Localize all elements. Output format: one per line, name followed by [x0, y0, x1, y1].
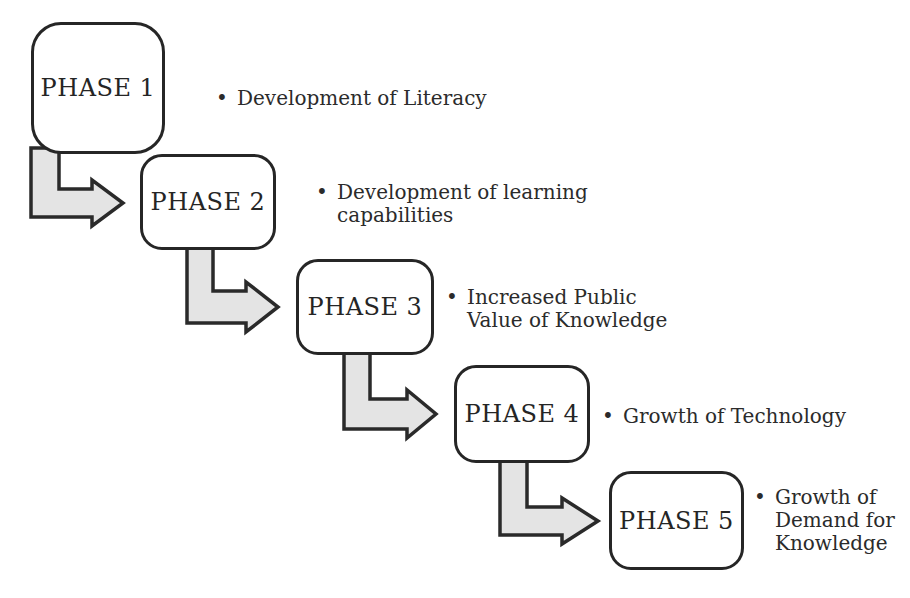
phase-4-annotation: • Growth of Technology: [602, 405, 846, 428]
phase-5-label: PHASE 5: [619, 507, 734, 535]
phase-5-annotation: • Growth of Demand for Knowledge: [754, 486, 895, 555]
arrow-phase3-to-phase4: [344, 349, 436, 438]
annotation-line: Increased Public: [467, 286, 667, 309]
phase-3-box: PHASE 3: [296, 259, 434, 355]
bullet-icon: •: [216, 87, 228, 110]
phase-2-annotation-text: Development of learning capabilities: [337, 181, 588, 227]
phase-2-box: PHASE 2: [140, 154, 276, 250]
phase-5-annotation-text: Growth of Demand for Knowledge: [775, 486, 895, 555]
bullet-icon: •: [316, 181, 328, 204]
annotation-line: Value of Knowledge: [467, 309, 667, 332]
arrow-phase1-to-phase2: [31, 148, 123, 226]
phase-1-box: PHASE 1: [31, 22, 165, 154]
phase-3-annotation-text: Increased Public Value of Knowledge: [467, 286, 667, 332]
annotation-line: Growth of Technology: [623, 405, 846, 428]
phase-4-label: PHASE 4: [465, 400, 580, 428]
annotation-line: Demand for: [775, 509, 895, 532]
phase-4-annotation-text: Growth of Technology: [623, 405, 846, 428]
phase-2-label: PHASE 2: [151, 188, 266, 216]
bullet-icon: •: [602, 405, 614, 428]
arrow-phase4-to-phase5: [500, 456, 598, 544]
annotation-line: Development of learning: [337, 181, 588, 204]
arrow-phase2-to-phase3: [187, 244, 278, 332]
annotation-line: capabilities: [337, 204, 588, 227]
annotation-line: Development of Literacy: [237, 87, 487, 110]
phase-flow-diagram: PHASE 1 PHASE 2 PHASE 3 PHASE 4 PHASE 5 …: [0, 0, 910, 598]
phase-3-label: PHASE 3: [308, 293, 423, 321]
phase-1-annotation-text: Development of Literacy: [237, 87, 487, 110]
phase-1-label: PHASE 1: [41, 74, 156, 102]
bullet-icon: •: [446, 286, 458, 309]
bullet-icon: •: [754, 486, 766, 509]
phase-3-annotation: • Increased Public Value of Knowledge: [446, 286, 667, 332]
phase-5-box: PHASE 5: [609, 471, 744, 570]
phase-4-box: PHASE 4: [454, 365, 590, 463]
phase-2-annotation: • Development of learning capabilities: [316, 181, 588, 227]
annotation-line: Growth of: [775, 486, 895, 509]
phase-1-annotation: • Development of Literacy: [216, 87, 487, 110]
annotation-line: Knowledge: [775, 532, 895, 555]
